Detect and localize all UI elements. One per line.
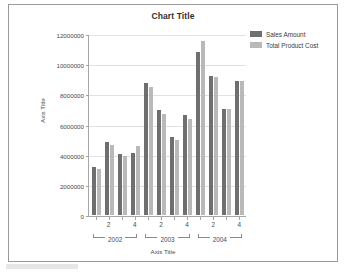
y-axis-tick-label: 0 [81, 213, 84, 220]
bar-group[interactable] [233, 35, 246, 215]
legend-label: Total Product Cost [266, 42, 318, 49]
bar[interactable] [157, 110, 161, 215]
x-axis-tick-label [89, 221, 102, 231]
x-axis-tick-label: 2 [207, 221, 220, 231]
y-axis-title: Axis Title [39, 98, 46, 123]
x-axis-tick-label: 4 [181, 221, 194, 231]
bar[interactable] [188, 119, 192, 215]
x-axis-tick-label: 4 [128, 221, 141, 231]
bar[interactable] [235, 81, 239, 215]
chart-title: Chart Title [9, 11, 337, 21]
year-group-bracket: 2003 [141, 233, 193, 245]
x-axis-tick-mark [122, 217, 123, 220]
y-axis-tick-label: 10000000 [56, 62, 84, 69]
x-axis-tick-label [141, 221, 154, 231]
bar[interactable] [162, 114, 166, 215]
bar[interactable] [118, 154, 122, 215]
x-axis-tick-label: 4 [233, 221, 246, 231]
chart-card: Chart Title Sales AmountTotal Product Co… [8, 4, 338, 262]
bar-group[interactable] [116, 35, 129, 215]
x-axis-tick-mark [161, 217, 162, 220]
x-axis-tick-label: 2 [102, 221, 115, 231]
bar-group[interactable] [142, 35, 155, 215]
y-axis-tick-label: 12000000 [56, 32, 84, 39]
bar-group[interactable] [90, 35, 103, 215]
y-axis-tick [86, 156, 89, 157]
y-axis-tick-label: 2000000 [60, 182, 84, 189]
bar[interactable] [209, 76, 213, 215]
bar-groups [90, 35, 246, 215]
bar-group[interactable] [207, 35, 220, 215]
x-axis-tick-mark [148, 217, 149, 220]
x-axis-title: Axis Title [80, 248, 246, 255]
bar[interactable] [149, 87, 153, 215]
bar[interactable] [131, 153, 135, 215]
bracket-tick-right [136, 234, 137, 238]
legend-swatch-icon [250, 31, 262, 37]
bar-group[interactable] [168, 35, 181, 215]
legend-label: Sales Amount [266, 31, 305, 38]
x-axis-tick-mark [135, 217, 136, 220]
y-axis-tick [86, 126, 89, 127]
x-axis-tick-label [167, 221, 180, 231]
bar[interactable] [227, 109, 231, 215]
x-axis-tick-mark [213, 217, 214, 220]
year-group-bracket: 2004 [194, 233, 246, 245]
x-axis-tick-mark [96, 217, 97, 220]
bar[interactable] [175, 140, 179, 215]
bar[interactable] [92, 167, 96, 215]
bar[interactable] [196, 52, 200, 215]
bracket-tick-right [241, 234, 242, 238]
year-group-bracket: 2002 [89, 233, 141, 245]
x-axis-tick-mark [187, 217, 188, 220]
bar[interactable] [222, 109, 226, 215]
year-label: 2003 [157, 236, 177, 243]
bar[interactable] [144, 83, 148, 215]
bar[interactable] [183, 115, 187, 216]
bar-group[interactable] [103, 35, 116, 215]
chart-legend: Sales AmountTotal Product Cost [250, 29, 338, 51]
x-axis-tick-label [115, 221, 128, 231]
y-axis-tick [86, 35, 89, 36]
bar-group[interactable] [181, 35, 194, 215]
bar[interactable] [110, 145, 114, 215]
year-group-brackets: 200220032004 [89, 233, 246, 245]
bar[interactable] [201, 41, 205, 215]
bar[interactable] [170, 137, 174, 215]
bar-group[interactable] [155, 35, 168, 215]
legend-item[interactable]: Sales Amount [250, 29, 338, 39]
plot-area: 0200000040000006000000800000010000000120… [88, 35, 246, 217]
bar-group[interactable] [194, 35, 207, 215]
year-label: 2004 [210, 236, 230, 243]
bar[interactable] [105, 142, 109, 215]
bracket-tick-right [189, 234, 190, 238]
bar[interactable] [214, 77, 218, 215]
bar[interactable] [97, 169, 101, 215]
x-axis-tick-mark [174, 217, 175, 220]
bracket-tick-left [198, 234, 199, 238]
x-axis-tick-mark [200, 217, 201, 220]
x-axis-tick-mark [239, 217, 240, 220]
x-axis-labels: 242424 [89, 221, 246, 231]
bracket-tick-left [145, 234, 146, 238]
bar[interactable] [240, 81, 244, 215]
y-axis-tick-label: 4000000 [60, 152, 84, 159]
year-label: 2002 [105, 236, 125, 243]
x-axis-tick-label: 2 [154, 221, 167, 231]
x-axis-tick-mark [226, 217, 227, 220]
bottom-artifact-strip [6, 264, 78, 269]
legend-swatch-icon [250, 42, 262, 48]
bar[interactable] [136, 146, 140, 215]
x-axis-tick-mark [109, 217, 110, 220]
y-axis-tick-label: 8000000 [60, 92, 84, 99]
plot-wrapper: 0200000040000006000000800000010000000120… [80, 35, 246, 217]
y-axis-tick [86, 95, 89, 96]
y-axis-tick-label: 6000000 [60, 122, 84, 129]
bar-group[interactable] [220, 35, 233, 215]
bracket-tick-left [93, 234, 94, 238]
bar-group[interactable] [129, 35, 142, 215]
bar[interactable] [123, 156, 127, 215]
y-axis-tick [86, 186, 89, 187]
legend-item[interactable]: Total Product Cost [250, 40, 338, 50]
x-axis-tick-label [194, 221, 207, 231]
